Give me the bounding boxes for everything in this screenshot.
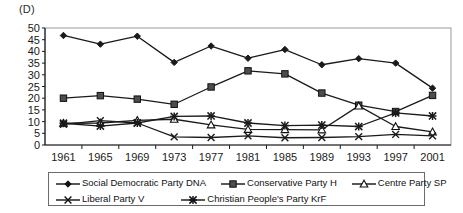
square-marker [208, 84, 214, 90]
x-tick-label: 1973 [162, 151, 186, 163]
x-tick-label: 1981 [236, 151, 260, 163]
square-point-icon [319, 90, 325, 96]
square-point-icon [60, 95, 66, 101]
star-marker [355, 123, 363, 131]
square-marker [97, 92, 103, 98]
x-tick-label: 1985 [273, 151, 297, 163]
star-marker [318, 121, 326, 129]
triangle-marker-icon [351, 176, 377, 188]
star-marker [96, 122, 104, 130]
x-tick-label: 1993 [346, 151, 370, 163]
legend-label: Conservative Party H [247, 177, 337, 188]
x-tick-label: 1969 [125, 151, 149, 163]
y-tick-label: 45 [28, 34, 40, 46]
star-marker [429, 112, 437, 120]
x-tick-label: 1989 [310, 151, 334, 163]
square-point-icon [134, 96, 140, 102]
x-marker-icon [55, 192, 81, 204]
chart-plot-area: 0510152025303540455019611965196919731977… [0, 14, 463, 164]
square-marker [171, 101, 177, 107]
x-tick-label: 2001 [420, 151, 444, 163]
y-tick-label: 5 [34, 127, 40, 139]
x-tick-label: 1977 [199, 151, 223, 163]
star-marker [281, 122, 289, 130]
square-point-icon [230, 181, 236, 187]
figure-panel-d: (D) 051015202530354045501961196519691973… [0, 0, 463, 213]
legend-label: Centre Party SP [378, 177, 447, 188]
square-point-icon [208, 84, 214, 90]
star-marker-icon [180, 192, 206, 204]
legend-label: Liberal Party V [82, 193, 144, 204]
square-marker-icon [220, 176, 246, 188]
square-point-icon [245, 68, 251, 74]
chart-legend: Social Democratic Party DNA Conservative… [48, 172, 425, 206]
x-tick-label: 1961 [51, 151, 75, 163]
square-marker [429, 92, 435, 98]
square-marker [134, 96, 140, 102]
y-tick-label: 15 [28, 104, 40, 116]
star-marker [244, 119, 252, 127]
square-marker [245, 68, 251, 74]
legend-row-2: Liberal Party V Christian People's Party… [49, 190, 424, 206]
legend-item-centre-party-sp: Centre Party SP [351, 176, 447, 188]
square-point-icon [97, 92, 103, 98]
star-marker [207, 112, 215, 120]
star-marker [392, 109, 400, 117]
y-tick-label: 20 [28, 92, 40, 104]
line-chart-svg: 0510152025303540455019611965196919731977… [0, 14, 463, 164]
y-tick-label: 40 [28, 45, 40, 57]
legend-row-1: Social Democratic Party DNA Conservative… [49, 174, 424, 190]
diamond-marker [65, 181, 71, 187]
legend-item-conservative-party-h: Conservative Party H [220, 176, 337, 188]
y-tick-label: 0 [34, 139, 40, 151]
star-marker [59, 119, 67, 127]
y-tick-label: 30 [28, 69, 40, 81]
star-marker [170, 112, 178, 120]
square-point-icon [429, 92, 435, 98]
y-tick-label: 10 [28, 116, 40, 128]
x-tick-label: 1965 [88, 151, 112, 163]
x-tick-label: 1997 [383, 151, 407, 163]
legend-label: Christian People's Party KrF [207, 193, 326, 204]
legend-item-christian-peoples-party-krf: Christian People's Party KrF [180, 192, 326, 204]
legend-item-social-democratic-party-dna: Social Democratic Party DNA [55, 176, 206, 188]
square-marker [319, 90, 325, 96]
square-point-icon [282, 71, 288, 77]
square-point-icon [171, 101, 177, 107]
square-marker [282, 71, 288, 77]
y-tick-label: 25 [28, 81, 40, 93]
star-marker [133, 119, 141, 127]
legend-item-liberal-party-v: Liberal Party V [55, 192, 144, 204]
y-tick-label: 50 [28, 22, 40, 34]
diamond-marker-icon [55, 176, 81, 188]
star-marker [189, 196, 197, 204]
square-marker [230, 181, 236, 187]
legend-label: Social Democratic Party DNA [82, 177, 206, 188]
y-tick-label: 35 [28, 57, 40, 69]
square-marker [60, 95, 66, 101]
diamond-point-icon [65, 181, 71, 187]
